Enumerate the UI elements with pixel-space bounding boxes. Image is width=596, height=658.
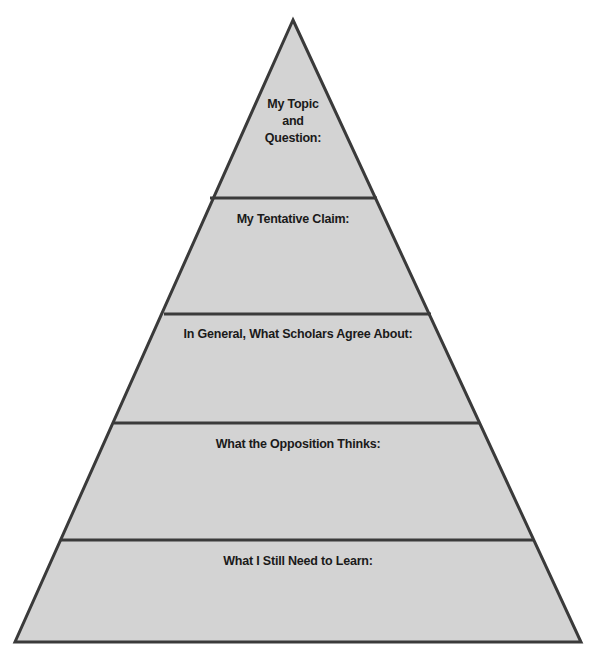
level-topic-and-question: My Topic and Question: — [193, 96, 393, 147]
level-scholars-agree: In General, What Scholars Agree About: — [98, 326, 498, 343]
level-tentative-claim: My Tentative Claim: — [143, 211, 443, 228]
level-opposition-thinks: What the Opposition Thinks: — [98, 436, 498, 453]
level-still-need-to-learn: What I Still Need to Learn: — [98, 553, 498, 570]
